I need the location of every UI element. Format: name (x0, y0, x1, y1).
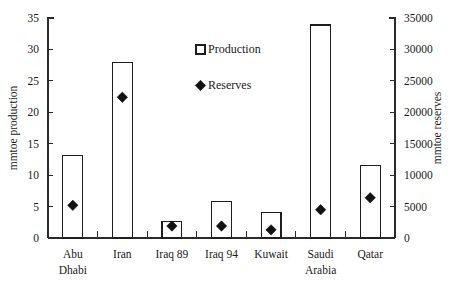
left-y-axis: 05101520253035 (28, 12, 55, 244)
x-axis-category-label: Iran (113, 248, 132, 260)
y2-axis-tick-label: 10000 (404, 169, 433, 181)
legend-label-reserves: Reserves (208, 78, 252, 92)
x-axis-category-label: Saudi (308, 248, 334, 260)
y2-axis-tick-label: 35000 (404, 12, 433, 24)
production-bar (212, 202, 232, 238)
y-axis-title: mmtoe production (7, 85, 20, 170)
production-bar (63, 156, 83, 238)
y-axis-tick-label: 30 (28, 43, 40, 55)
dual-axis-bar-chart: 05101520253035 0500010000150002000025000… (0, 0, 453, 292)
x-axis-category-label: Iraq 94 (205, 248, 238, 261)
y-axis-tick-label: 5 (33, 201, 39, 213)
chart-legend: ProductionReserves (195, 42, 260, 92)
legend-label-production: Production (208, 42, 261, 56)
y-axis-tick-label: 0 (33, 232, 39, 244)
y2-axis-tick-label: 5000 (404, 201, 427, 213)
x-axis-category-label: Arabia (305, 264, 336, 276)
production-bars (63, 25, 380, 238)
y2-axis-tick-label: 30000 (404, 43, 433, 55)
x-axis-category-label: Iraq 89 (155, 248, 188, 261)
y2-axis-tick-label: 25000 (404, 75, 433, 87)
y-axis-tick-label: 25 (28, 75, 40, 87)
y-axis-tick-label: 10 (28, 169, 40, 181)
y-axis-tick-label: 15 (28, 138, 40, 150)
x-axis-category-label: Dhabi (59, 264, 87, 276)
y2-axis-tick-label: 0 (404, 232, 410, 244)
legend-swatch-production (196, 45, 205, 54)
y2-axis-tick-label: 20000 (404, 106, 433, 118)
right-y-axis: 05000100001500020000250003000035000 (389, 12, 433, 244)
y2-axis-title: mmtoe reserves (431, 91, 443, 164)
category-labels: AbuDhabiIranIraq 89Iraq 94KuwaitSaudiAra… (59, 248, 383, 276)
y2-axis-tick-label: 15000 (404, 138, 433, 150)
y-axis-tick-label: 35 (28, 12, 40, 24)
chart-container: 05101520253035 0500010000150002000025000… (0, 0, 453, 292)
x-axis-category-label: Qatar (357, 248, 383, 260)
x-axis-category-label: Kuwait (254, 248, 289, 260)
x-axis-category-label: Abu (63, 248, 83, 260)
production-bar (112, 63, 132, 238)
legend-swatch-reserves (195, 80, 205, 90)
y-axis-tick-label: 20 (28, 106, 40, 118)
